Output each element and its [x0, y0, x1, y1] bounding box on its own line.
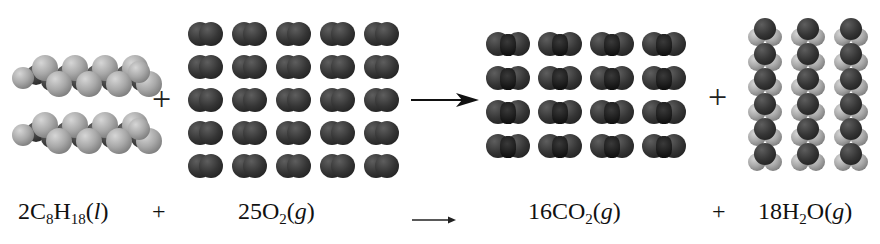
oxygen-atom — [375, 55, 399, 79]
carbon-atom — [500, 136, 516, 158]
oxygen-atom — [840, 118, 862, 140]
oxygen-atom — [287, 121, 311, 145]
reactant-oxygen-formula: 25O2(g) — [238, 198, 315, 228]
oxygen-atom — [331, 154, 355, 178]
oxygen-atom — [754, 43, 776, 65]
oxygen-atom — [287, 55, 311, 79]
product-carbon-dioxide-formula: 16CO2(g) — [528, 198, 621, 228]
oxygen-atom — [840, 18, 862, 40]
arrow-right-icon — [410, 92, 480, 108]
reaction-arrow-equation — [412, 211, 456, 221]
oxygen-atom — [287, 88, 311, 112]
octane-molecule-2 — [12, 112, 152, 156]
oxygen-atom — [840, 143, 862, 165]
oxygen-atom — [840, 93, 862, 115]
plus-sign-products-equation: + — [712, 198, 726, 225]
carbon-atom — [656, 102, 672, 124]
carbon-atom — [656, 136, 672, 158]
oxygen-atom — [287, 22, 311, 46]
oxygen-atom — [797, 143, 819, 165]
carbon-atom — [656, 68, 672, 90]
hydrogen-atom — [128, 61, 150, 83]
oxygen-atom — [199, 22, 223, 46]
oxygen-atom — [199, 55, 223, 79]
carbon-atom — [500, 68, 516, 90]
hydrogen-atom — [12, 124, 34, 146]
oxygen-atom — [797, 18, 819, 40]
oxygen-atom — [797, 93, 819, 115]
oxygen-atom — [754, 18, 776, 40]
hydrogen-atom — [12, 67, 34, 89]
arrow-right-icon — [412, 215, 456, 225]
octane-molecule-1 — [12, 55, 152, 99]
oxygen-atom — [243, 55, 267, 79]
carbon-atom — [500, 102, 516, 124]
oxygen-atom — [243, 154, 267, 178]
oxygen-atom — [199, 154, 223, 178]
reactant-octane-formula: 2C8H18(l) — [18, 198, 109, 228]
oxygen-molecules-grid — [188, 22, 400, 182]
carbon-atom — [552, 68, 568, 90]
oxygen-atom — [243, 121, 267, 145]
water-molecules-grid — [748, 18, 880, 168]
carbon-atom — [552, 34, 568, 56]
oxygen-atom — [243, 22, 267, 46]
carbon-atom — [604, 102, 620, 124]
plus-sign-products-image: + — [708, 80, 727, 114]
oxygen-atom — [797, 43, 819, 65]
plus-sign-reactants-image: + — [152, 82, 171, 116]
oxygen-atom — [331, 121, 355, 145]
oxygen-atom — [199, 88, 223, 112]
carbon-dioxide-molecules-grid — [486, 32, 706, 162]
oxygen-atom — [754, 68, 776, 90]
oxygen-atom — [243, 88, 267, 112]
hydrogen-atom — [128, 118, 150, 140]
hydrogen-atom — [76, 128, 102, 154]
oxygen-atom — [840, 68, 862, 90]
carbon-atom — [604, 68, 620, 90]
carbon-atom — [552, 136, 568, 158]
carbon-atom — [656, 34, 672, 56]
plus-sign-reactants-equation: + — [152, 198, 166, 225]
oxygen-atom — [331, 55, 355, 79]
product-water-formula: 18H2O(g) — [758, 198, 852, 228]
oxygen-atom — [840, 43, 862, 65]
oxygen-atom — [331, 88, 355, 112]
hydrogen-atom — [46, 128, 72, 154]
oxygen-atom — [375, 121, 399, 145]
oxygen-atom — [754, 93, 776, 115]
oxygen-atom — [797, 118, 819, 140]
oxygen-atom — [287, 154, 311, 178]
carbon-atom — [500, 34, 516, 56]
oxygen-atom — [754, 118, 776, 140]
oxygen-atom — [375, 154, 399, 178]
octane-molecules-group — [0, 0, 160, 190]
reaction-arrow-image — [410, 92, 480, 108]
oxygen-atom — [375, 22, 399, 46]
carbon-atom — [552, 102, 568, 124]
oxygen-atom — [375, 88, 399, 112]
hydrogen-atom — [46, 71, 72, 97]
carbon-atom — [604, 34, 620, 56]
oxygen-atom — [199, 121, 223, 145]
carbon-atom — [604, 136, 620, 158]
hydrogen-atom — [76, 71, 102, 97]
oxygen-atom — [797, 68, 819, 90]
oxygen-atom — [754, 143, 776, 165]
oxygen-atom — [331, 22, 355, 46]
